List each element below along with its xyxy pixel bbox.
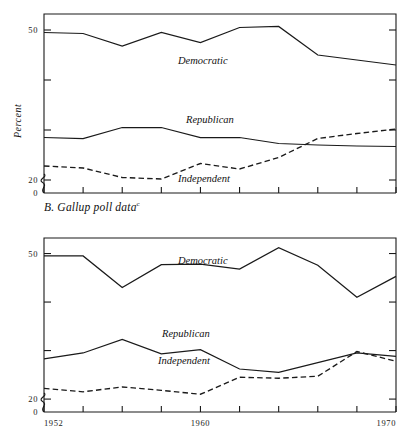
- series-label-independent: Independent: [177, 173, 231, 184]
- series-line-independent: [44, 352, 396, 395]
- series-line-republican: [44, 339, 396, 372]
- series-label-democratic: Democratic: [177, 55, 228, 66]
- x-tick-label: 1970: [377, 418, 396, 428]
- series-label-republican: Republican: [185, 114, 234, 125]
- panel-b: B. Gallup poll datac Percent 50200195219…: [0, 196, 411, 436]
- panel-b-plot: 50200195219601970DemocraticRepublicanInd…: [0, 196, 411, 436]
- y-tick-label: 20: [28, 394, 38, 404]
- series-line-republican: [44, 128, 396, 147]
- panel-a-plot: 50200DemocraticRepublicanIndependent: [0, 0, 411, 200]
- series-label-republican: Republican: [161, 328, 210, 339]
- panel-a: Percent 50200DemocraticRepublicanIndepen…: [0, 0, 411, 200]
- x-tick-label: 1960: [191, 418, 210, 428]
- y-tick-label: 50: [28, 249, 38, 259]
- y-tick-label: 20: [28, 175, 38, 185]
- series-line-independent: [44, 129, 396, 179]
- series-label-independent: Independent: [157, 355, 211, 366]
- y-tick-label-zero: 0: [33, 407, 38, 417]
- series-label-democratic: Democratic: [177, 255, 228, 266]
- y-tick-label: 50: [28, 25, 38, 35]
- x-tick-label: 1952: [44, 418, 63, 428]
